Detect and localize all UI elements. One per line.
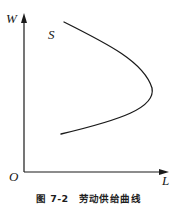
figure-caption: 图 7-2劳动供给曲线 xyxy=(0,192,177,205)
figure-caption-title: 劳动供给曲线 xyxy=(79,193,141,204)
origin-label: O xyxy=(9,170,18,183)
y-axis-label: W xyxy=(6,12,17,25)
x-axis-label: L xyxy=(162,174,169,187)
y-axis-arrow-icon xyxy=(21,13,27,23)
supply-curve xyxy=(61,22,152,134)
figure-svg xyxy=(0,0,177,190)
plot-area: W L O S xyxy=(0,0,177,190)
supply-curve-label: S xyxy=(48,28,55,41)
figure-caption-number: 图 7-2 xyxy=(36,193,68,204)
figure-container: W L O S 图 7-2劳动供给曲线 xyxy=(0,0,177,206)
